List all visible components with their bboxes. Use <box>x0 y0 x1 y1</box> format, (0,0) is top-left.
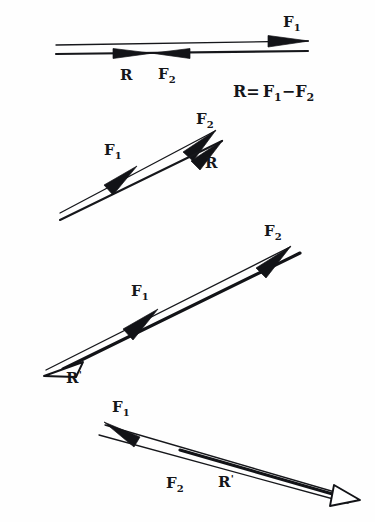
diagram-4-lower-line <box>99 435 348 503</box>
diagram-4-f1-label: F1 <box>112 398 130 418</box>
diagram-2-lower-line <box>60 141 222 220</box>
diagram-4-group: F1 F2 R' <box>99 398 360 506</box>
diagram-4-rprime-label: R' <box>218 473 234 491</box>
handwritten-physics-sketch: F1 R F2 R=F1−F2 F2 <box>0 0 375 522</box>
vector-diagram-canvas: F1 R F2 R=F1−F2 F2 <box>0 0 375 522</box>
diagram-4-rprime-arrowhead <box>330 485 360 506</box>
diagram-1-group: F1 R F2 <box>56 13 309 85</box>
diagram-1-f2-arrowhead <box>152 49 190 59</box>
diagram-4-rprime-line <box>180 450 336 495</box>
diagram-3-rprime-label: R' <box>66 369 82 387</box>
diagram-2-upper-line <box>60 131 215 213</box>
diagram-3-lower-line <box>63 253 300 369</box>
diagram-1-f2-label: F2 <box>158 65 176 85</box>
diagram-4-f2-label: F2 <box>166 474 184 494</box>
diagram-2-r-label: R <box>205 154 218 172</box>
diagram-4-f1-arrowhead <box>104 422 140 447</box>
diagram-2-group: F2 F1 R <box>60 110 223 220</box>
diagram-2-f2-label: F2 <box>196 110 214 130</box>
diagram-1-f1-arrowhead <box>268 36 309 48</box>
diagram-1-f1-label: F1 <box>283 13 301 33</box>
diagram-3-upper-line <box>46 247 290 370</box>
diagram-2-f1-label: F1 <box>104 141 122 161</box>
diagram-1-r-arrowhead <box>113 49 152 59</box>
diagram-3-f2-label: F2 <box>264 222 282 242</box>
diagram-1-r-label: R <box>120 66 133 84</box>
diagram-3-group: F2 F1 R' <box>44 222 300 387</box>
resultant-equation: R=F1−F2 <box>233 82 314 104</box>
diagram-3-f1-label: F1 <box>131 282 149 302</box>
